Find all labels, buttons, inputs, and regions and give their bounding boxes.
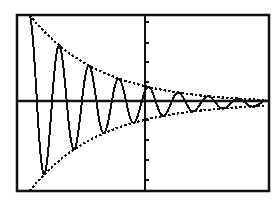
damped-oscillation-curve [30,15,267,174]
lower-envelope-curve [30,106,265,191]
plot-series [30,15,267,191]
calculator-graph-screen [0,0,272,206]
graph-plot [0,0,272,206]
